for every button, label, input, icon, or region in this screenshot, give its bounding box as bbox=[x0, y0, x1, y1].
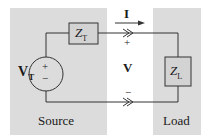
voltage-label: V bbox=[123, 60, 132, 76]
voltage-plus-sign: + bbox=[124, 36, 130, 48]
load-panel-label: Load bbox=[163, 113, 190, 129]
current-label: I bbox=[124, 6, 129, 22]
current-arrow-icon bbox=[115, 21, 145, 26]
zt-label: ZT bbox=[75, 25, 87, 43]
source-panel-label: Source bbox=[38, 113, 74, 129]
vt-minus-sign: − bbox=[42, 72, 48, 84]
zl-label: ZL bbox=[170, 63, 182, 81]
voltage-minus-sign: − bbox=[125, 86, 131, 98]
vt-label: VT bbox=[18, 64, 34, 82]
vt-plus-sign: + bbox=[42, 60, 48, 72]
circuit-diagram: VT + − ZT ZL I + V − Source Load bbox=[0, 0, 214, 138]
